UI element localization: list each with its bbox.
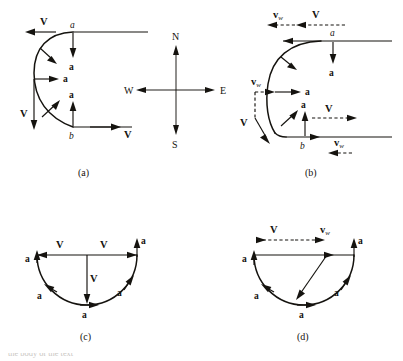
panel-a-caption: (a) [78, 167, 89, 179]
panel-a-velocity-bottom-label: V [124, 129, 132, 140]
physics-vector-figure: V a a a V [0, 0, 403, 361]
panel-c-velocity-center-label: V [90, 273, 98, 284]
panel-a-accel-middle-label: a [63, 74, 68, 84]
panel-b-velocity-left-label: V [240, 117, 248, 128]
panel-a-accel-top-label: a [69, 62, 74, 72]
panel-b-accel-bottom-label: a [301, 100, 306, 110]
panel-a-velocity-left-label: V [20, 108, 28, 119]
panel-c-caption: (c) [80, 331, 91, 343]
panel-b-velocity-bottom-label: V [325, 103, 333, 114]
panel-d-accel-top-right-label: a [358, 236, 363, 246]
figure-background [0, 0, 403, 361]
panel-b-accel-middle-label: a [305, 87, 310, 97]
panel-a-point-b-label: b [69, 131, 74, 141]
compass-east-label: E [220, 85, 226, 96]
panel-a-accel-bottom-label: a [69, 90, 74, 100]
panel-c-accel-bottom-label: a [82, 310, 87, 320]
clipped-page-text-region: the body of the text [0, 353, 403, 361]
panel-d-accel-lower-right-label: a [334, 288, 339, 298]
panel-a-velocity-top-label: V [40, 16, 48, 27]
panel-c-accel-lower-right-label: a [117, 288, 122, 298]
panel-c-accel-top-right-label: a [141, 236, 146, 246]
panel-b-point-b-label: b [300, 141, 305, 151]
panel-b-caption: (b) [305, 167, 317, 179]
panel-d-accel-top-left-label: a [242, 254, 247, 264]
compass-west-label: W [124, 85, 134, 96]
compass-north-label: N [172, 31, 179, 42]
panel-b-accel-top-label: a [329, 68, 334, 78]
panel-a-point-a-label: a [70, 20, 75, 30]
compass-south-label: S [172, 139, 178, 150]
panel-c-accel-lower-left-label: a [37, 291, 42, 301]
panel-d-accel-bottom-label: a [299, 310, 304, 320]
panel-d-caption: (d) [297, 331, 309, 343]
panel-c-velocity-left-label: V [56, 239, 64, 250]
panel-c-velocity-right-label: V [100, 239, 108, 250]
panel-b-velocity-top-label: V [312, 9, 320, 20]
panel-c-accel-top-left-label: a [25, 254, 30, 264]
panel-d-accel-lower-left-label: a [254, 291, 259, 301]
panel-d-velocity-top-label: V [270, 224, 278, 235]
clipped-page-text: the body of the text [8, 353, 398, 358]
panel-b-point-a-label: a [330, 28, 335, 38]
